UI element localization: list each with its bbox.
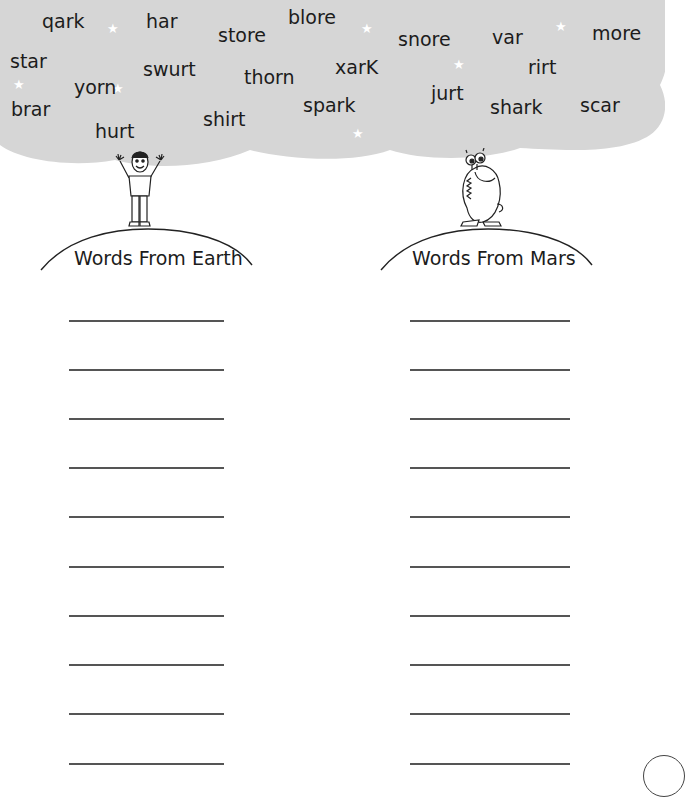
word: har xyxy=(146,10,178,32)
star-icon: ★ xyxy=(555,20,567,33)
word: more xyxy=(592,22,641,44)
answer-line[interactable] xyxy=(410,320,570,322)
page-number-circle xyxy=(643,755,685,797)
word: snore xyxy=(398,28,451,50)
boy-character-icon xyxy=(115,150,165,232)
star-icon: ★ xyxy=(361,22,373,35)
word: scar xyxy=(580,94,620,116)
word: rirt xyxy=(528,56,556,78)
answer-line[interactable] xyxy=(69,516,224,518)
word: spark xyxy=(303,94,355,116)
word: var xyxy=(492,26,523,48)
star-icon: ★ xyxy=(352,127,364,140)
mars-column-heading: Words From Mars xyxy=(412,247,576,269)
star-icon: ★ xyxy=(107,22,119,35)
answer-line[interactable] xyxy=(410,369,570,371)
answer-line[interactable] xyxy=(69,664,224,666)
word: swurt xyxy=(143,58,196,80)
answer-line[interactable] xyxy=(69,763,224,765)
answer-line[interactable] xyxy=(410,713,570,715)
answer-line[interactable] xyxy=(410,566,570,568)
word: shark xyxy=(490,96,542,118)
martian-character-icon xyxy=(455,148,515,232)
word: yorn xyxy=(74,76,116,98)
answer-line[interactable] xyxy=(69,467,224,469)
answer-line[interactable] xyxy=(410,664,570,666)
answer-line[interactable] xyxy=(69,418,224,420)
star-icon: ★ xyxy=(453,58,465,71)
word: xarK xyxy=(335,56,378,78)
earth-column-heading: Words From Earth xyxy=(74,247,243,269)
star-icon: ★ xyxy=(13,78,25,91)
word: brar xyxy=(11,98,50,120)
answer-line[interactable] xyxy=(410,763,570,765)
answer-line[interactable] xyxy=(69,320,224,322)
word: hurt xyxy=(95,120,134,142)
word: shirt xyxy=(203,108,245,130)
answer-line[interactable] xyxy=(69,566,224,568)
answer-line[interactable] xyxy=(69,713,224,715)
word: thorn xyxy=(244,66,295,88)
answer-line[interactable] xyxy=(69,369,224,371)
word: qark xyxy=(42,10,85,32)
answer-line[interactable] xyxy=(69,615,224,617)
answer-line[interactable] xyxy=(410,615,570,617)
word: blore xyxy=(288,6,336,28)
word: jurt xyxy=(431,82,464,104)
answer-line[interactable] xyxy=(410,418,570,420)
answer-line[interactable] xyxy=(410,516,570,518)
word: store xyxy=(218,24,266,46)
word: star xyxy=(10,50,47,72)
answer-line[interactable] xyxy=(410,467,570,469)
